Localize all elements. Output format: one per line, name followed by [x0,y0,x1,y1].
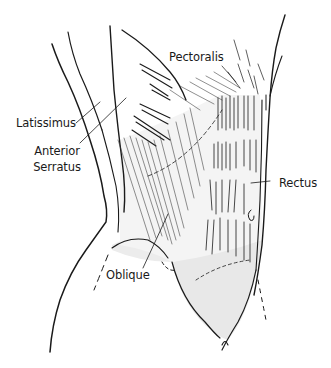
label-rectus: Rectus [279,176,317,191]
label-latissimus: Latissimus [16,116,76,131]
label-serratus: Serratus [31,160,83,175]
anatomy-diagram: Pectoralis Latissimus Anterior Serratus … [0,0,331,368]
label-anterior: Anterior [31,144,83,159]
label-oblique: Oblique [106,268,150,283]
back-outline [50,44,107,352]
label-pectoralis: Pectoralis [169,50,224,65]
